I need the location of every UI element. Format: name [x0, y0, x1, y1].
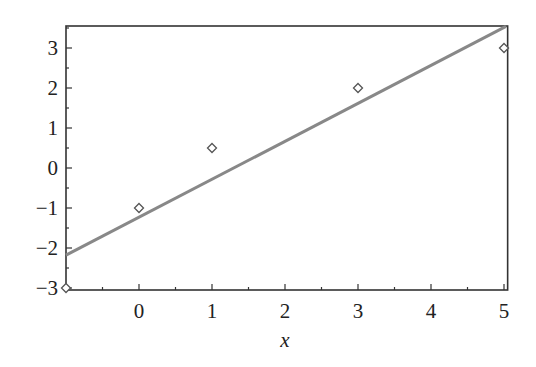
y-tick-label: 0: [48, 156, 59, 180]
x-axis-tick-labels: 012345: [134, 299, 510, 323]
y-tick-label: 1: [48, 116, 59, 140]
x-tick-label: 1: [207, 299, 218, 323]
scatter-plot-with-regression-line: 012345 −3−2−10123 x: [0, 0, 536, 367]
plot-frame: [66, 26, 508, 290]
diamond-marker-icon: [135, 204, 144, 213]
diamond-marker-icon: [62, 284, 71, 293]
y-axis-ticks: [66, 28, 72, 288]
y-tick-label: −1: [36, 196, 58, 220]
diamond-marker-icon: [208, 144, 217, 153]
y-axis-tick-labels: −3−2−10123: [36, 36, 58, 300]
diamond-marker-icon: [354, 84, 363, 93]
x-axis-ticks: [66, 284, 504, 290]
y-tick-label: −3: [36, 276, 58, 300]
y-tick-label: 3: [48, 36, 59, 60]
x-tick-label: 5: [499, 299, 510, 323]
x-tick-label: 3: [353, 299, 364, 323]
x-tick-label: 2: [280, 299, 291, 323]
y-tick-label: −2: [36, 236, 58, 260]
x-tick-label: 0: [134, 299, 145, 323]
x-axis-label: x: [279, 328, 290, 352]
regression-line: [66, 26, 506, 255]
fit-line: [66, 26, 506, 255]
data-point-markers: [62, 44, 509, 293]
y-tick-label: 2: [48, 76, 59, 100]
x-tick-label: 4: [426, 299, 437, 323]
